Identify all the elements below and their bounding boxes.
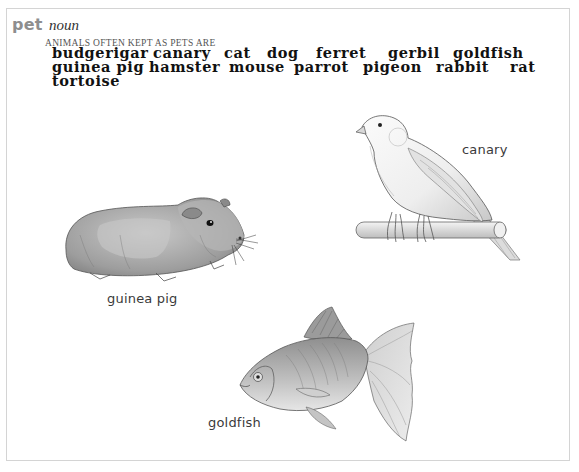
word-item[interactable]: mouse [229,60,285,74]
part-of-speech: noun [49,17,79,34]
goldfish-caption: goldfish [208,415,261,430]
guinea-pig-caption: guinea pig [107,291,178,306]
guinea-pig-illustration [60,195,260,285]
word-item[interactable]: pigeon [363,60,422,74]
word-item[interactable]: hamster [149,60,220,74]
word-item[interactable]: rat [510,60,536,74]
word-item[interactable]: parrot [294,60,349,74]
goldfish-illustration [236,305,421,455]
headword: pet [12,16,43,34]
canary-caption: canary [462,142,508,157]
word-item[interactable]: rabbit [436,60,489,74]
word-item[interactable]: tortoise [52,74,120,88]
canary-illustration [350,110,530,265]
